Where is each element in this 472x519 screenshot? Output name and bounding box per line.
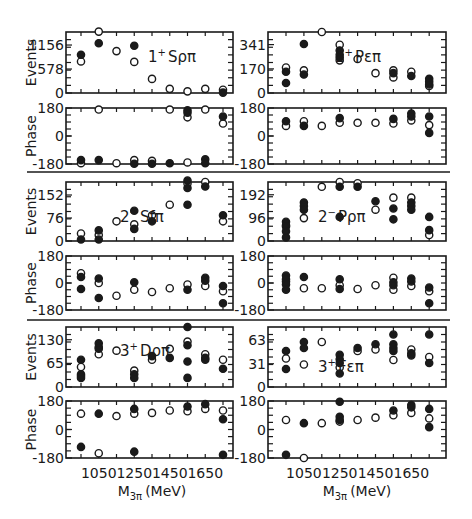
filled-data-point: [336, 183, 343, 190]
filled-data-point: [184, 342, 191, 349]
open-data-point: [372, 206, 379, 213]
filled-data-point: [426, 213, 433, 220]
wave-label: 3+Dρπ: [120, 341, 170, 360]
open-data-point: [184, 88, 191, 95]
open-data-point: [131, 58, 138, 65]
filled-data-point: [95, 410, 102, 417]
phase-panel-9: -1800180Phase: [23, 393, 233, 466]
y-tick-label: 96: [248, 210, 266, 226]
wave-label: 2−Pρπ: [318, 207, 366, 226]
filled-data-point: [372, 341, 379, 348]
x-tick-label: 1250: [322, 465, 358, 481]
open-data-point: [318, 122, 325, 129]
y-tick-label: 180: [239, 248, 266, 264]
filled-data-point: [408, 72, 415, 79]
filled-data-point: [77, 374, 84, 381]
y-tick-label: 192: [239, 187, 266, 203]
filled-data-point: [202, 356, 209, 363]
filled-data-point: [300, 71, 307, 78]
y-tick-label: 0: [55, 128, 64, 144]
open-data-point: [282, 355, 289, 362]
y-tick-label: 180: [37, 248, 64, 264]
filled-data-point: [300, 420, 307, 427]
open-data-point: [95, 106, 102, 113]
filled-data-point: [282, 347, 289, 354]
filled-data-point: [282, 286, 289, 293]
phase-axis-label: Phase: [23, 262, 39, 304]
x-tick-label: 1650: [187, 465, 223, 481]
x-tick-label: 1450: [358, 465, 394, 481]
filled-data-point: [184, 201, 191, 208]
open-data-point: [113, 160, 120, 167]
filled-data-point: [77, 443, 84, 450]
open-data-point: [166, 407, 173, 414]
open-data-point: [300, 215, 307, 222]
open-data-point: [166, 106, 173, 113]
filled-data-point: [408, 206, 415, 213]
filled-data-point: [426, 424, 433, 431]
y-tick-label: -180: [32, 450, 64, 466]
y-tick-label: 0: [257, 422, 266, 438]
filled-data-point: [184, 403, 191, 410]
filled-data-point: [184, 374, 191, 381]
events-panel-0: 05781156Events1+Sρπ: [23, 28, 233, 101]
open-data-point: [219, 120, 226, 127]
filled-data-point: [184, 184, 191, 191]
filled-data-point: [131, 225, 138, 232]
open-data-point: [113, 292, 120, 299]
filled-data-point: [219, 89, 226, 96]
y-tick-label: 180: [239, 100, 266, 116]
open-data-point: [166, 201, 173, 208]
filled-data-point: [219, 212, 226, 219]
y-tick-label: 152: [37, 187, 64, 203]
y-tick-label: 76: [46, 210, 64, 226]
filled-data-point: [300, 40, 307, 47]
open-data-point: [148, 75, 155, 82]
open-data-point: [148, 409, 155, 416]
y-tick-label: 65: [46, 355, 64, 371]
open-data-point: [390, 356, 397, 363]
open-data-point: [131, 286, 138, 293]
open-data-point: [372, 119, 379, 126]
open-data-point: [354, 416, 361, 423]
open-data-point: [318, 420, 325, 427]
phase-panel-5: -1800180Phase: [23, 248, 233, 318]
filled-data-point: [336, 416, 343, 423]
filled-data-point: [77, 356, 84, 363]
y-tick-label: 180: [37, 100, 64, 116]
filled-data-point: [131, 374, 138, 381]
filled-data-point: [166, 160, 173, 167]
filled-data-point: [184, 358, 191, 365]
phase-panel-3: -1800180: [234, 100, 446, 172]
open-data-point: [148, 288, 155, 295]
y-tick-label: 63: [248, 332, 266, 348]
filled-data-point: [77, 285, 84, 292]
filled-data-point: [390, 115, 397, 122]
phase-axis-label: Phase: [23, 409, 39, 451]
filled-data-point: [408, 113, 415, 120]
filled-data-point: [131, 448, 138, 455]
filled-data-point: [300, 206, 307, 213]
open-data-point: [95, 28, 102, 35]
filled-data-point: [95, 275, 102, 282]
open-data-point: [113, 47, 120, 54]
events-panel-6: 0961922−Pρπ: [239, 178, 446, 249]
filled-data-point: [390, 216, 397, 223]
filled-data-point: [77, 236, 84, 243]
open-data-point: [282, 416, 289, 423]
filled-data-point: [372, 198, 379, 205]
filled-data-point: [131, 279, 138, 286]
filled-data-point: [95, 157, 102, 164]
x-tick-label: 1050: [81, 465, 117, 481]
filled-data-point: [77, 51, 84, 58]
y-tick-label: 0: [257, 128, 266, 144]
x-tick-label: 1050: [286, 465, 322, 481]
filled-data-point: [300, 122, 307, 129]
filled-data-point: [336, 285, 343, 292]
filled-data-point: [336, 276, 343, 283]
filled-data-point: [354, 344, 361, 351]
y-tick-label: 578: [37, 61, 64, 77]
filled-data-point: [426, 81, 433, 88]
open-data-point: [113, 412, 120, 419]
events-panel-8: 065130Events3+Dρπ: [23, 323, 233, 395]
